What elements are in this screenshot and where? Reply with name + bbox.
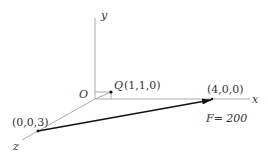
x-axis-label: x (252, 93, 259, 106)
z-axis-label: z (12, 140, 19, 153)
point-q-name: Q (114, 79, 123, 92)
q-diagonal (95, 92, 111, 99)
y-axis-label: y (100, 9, 108, 22)
force-label: F= 200 (205, 112, 247, 125)
force-arrow (38, 100, 211, 131)
force-diagram: y x z O Q (1,1,0) (4,0,0) (0,0,3) F= 200 (0, 0, 268, 158)
point-a-coords: (4,0,0) (207, 83, 244, 96)
point-q (109, 90, 112, 93)
point-b-coords: (0,0,3) (12, 116, 49, 129)
point-b (37, 130, 40, 133)
origin-label: O (79, 88, 88, 101)
point-a (211, 98, 213, 100)
point-q-coords: (1,1,0) (124, 79, 161, 92)
